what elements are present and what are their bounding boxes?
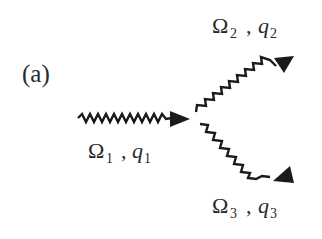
panel-label: (a) <box>22 60 50 88</box>
three-wave-interaction-diagram: (a) Ω 1 , q 1 Ω 2 , q 2 Ω 3 , q 3 <box>0 0 322 239</box>
arrowhead-icon <box>273 166 294 183</box>
lower-outgoing-wave-arrow <box>200 124 294 183</box>
omega-symbol: Ω <box>212 193 228 218</box>
arrowhead-icon <box>274 56 294 73</box>
incoming-wave-arrow <box>78 111 190 127</box>
omega-symbol: Ω <box>212 13 228 38</box>
upper-outgoing-label: Ω 2 , q 2 <box>212 13 277 41</box>
omega-subscript: 1 <box>106 151 113 166</box>
q-symbol: q <box>258 193 269 218</box>
lower-outgoing-label: Ω 3 , q 3 <box>212 193 277 221</box>
q-symbol: q <box>258 13 269 38</box>
separator: , <box>246 193 252 218</box>
omega-subscript: 3 <box>230 206 237 221</box>
incoming-label: Ω 1 , q 1 <box>88 138 151 166</box>
q-symbol: q <box>132 138 143 163</box>
arrowhead-icon <box>170 111 190 127</box>
omega-symbol: Ω <box>88 138 104 163</box>
q-subscript: 2 <box>270 26 277 41</box>
separator: , <box>246 13 252 38</box>
separator: , <box>121 138 127 163</box>
q-subscript: 3 <box>270 206 277 221</box>
upper-outgoing-wave-arrow <box>196 56 294 112</box>
q-subscript: 1 <box>144 151 151 166</box>
omega-subscript: 2 <box>230 26 237 41</box>
